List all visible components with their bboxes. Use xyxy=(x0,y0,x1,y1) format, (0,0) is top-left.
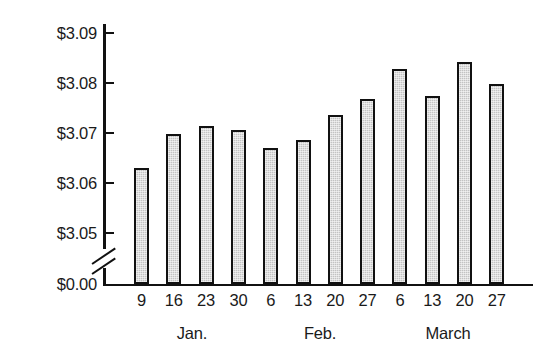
bar xyxy=(296,140,311,284)
bar xyxy=(231,130,246,284)
bar xyxy=(263,148,278,284)
bar xyxy=(489,84,504,284)
group-label-jan: Jan. xyxy=(137,325,247,342)
chart-figure: $3.09 $3.08 $3.07 $3.06 $3.05 $0.00 9162… xyxy=(0,0,559,354)
bar xyxy=(392,69,407,284)
group-label-feb: Feb. xyxy=(265,325,375,342)
bar xyxy=(199,126,214,284)
bar xyxy=(457,62,472,284)
bar xyxy=(328,115,343,284)
bar xyxy=(360,99,375,284)
bar xyxy=(134,168,149,284)
bar xyxy=(425,96,440,284)
x-tick-label: 27 xyxy=(477,292,517,309)
bar xyxy=(166,134,181,285)
group-label-march: March xyxy=(393,325,503,342)
